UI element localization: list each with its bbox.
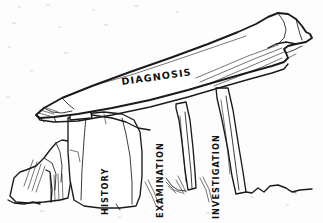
- rock-outcrop-left: [8, 140, 73, 204]
- ground-line: [246, 185, 312, 193]
- label-examination: EXAMINATION: [155, 142, 165, 218]
- label-investigation: INVESTIGATION: [211, 134, 221, 219]
- dolmen-drawing: DIAGNOSIS HISTORY EXAMINATION INVESTIGAT…: [0, 0, 323, 223]
- illustration-canvas: DIAGNOSIS HISTORY EXAMINATION INVESTIGAT…: [0, 0, 323, 223]
- pillar-examination: [176, 102, 196, 194]
- capstone-stone: [36, 13, 312, 122]
- label-history: HISTORY: [100, 168, 110, 215]
